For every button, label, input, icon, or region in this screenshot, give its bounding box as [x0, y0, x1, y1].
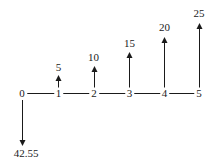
- inflow-value-period-4: 20: [159, 22, 170, 33]
- outflow-arrow-period-0: [19, 100, 26, 146]
- tick-label-4: 4: [160, 88, 170, 99]
- tick-label-1: 1: [54, 88, 64, 99]
- cash-flow-diagram: 5 10 15 20 25 42.55 0 1 2 3 4 5: [0, 0, 215, 166]
- arrow-shaft: [199, 27, 200, 90]
- inflow-value-period-5: 25: [194, 8, 205, 19]
- inflow-value-period-2: 10: [88, 52, 99, 63]
- timeline-axis: [22, 93, 200, 94]
- inflow-value-period-1: 5: [56, 62, 62, 73]
- tick-label-0: 0: [17, 88, 27, 99]
- outflow-value-period-0: 42.55: [14, 148, 39, 159]
- inflow-arrow-period-5: [196, 23, 203, 90]
- arrow-down-icon: [19, 140, 25, 146]
- inflow-arrow-period-3: [126, 52, 133, 90]
- inflow-arrow-period-4: [161, 37, 168, 90]
- tick-label-5: 5: [194, 88, 204, 99]
- tick-label-2: 2: [89, 88, 99, 99]
- arrow-shaft: [22, 100, 23, 142]
- tick-label-3: 3: [125, 88, 135, 99]
- inflow-value-period-3: 15: [124, 38, 135, 49]
- arrow-shaft: [129, 56, 130, 90]
- arrow-shaft: [164, 41, 165, 90]
